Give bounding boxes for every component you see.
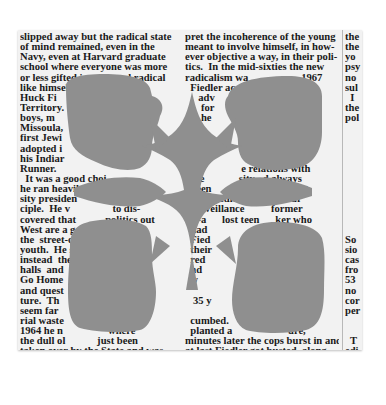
text-line: Navy, even at Harvard graduate xyxy=(20,52,180,62)
text-line: r xyxy=(185,133,339,143)
text-line: ever objective a way, in their poli- xyxy=(185,52,339,62)
text-line: sity presiden matter of xyxy=(20,194,180,204)
text-line: rial waste So xyxy=(20,316,180,326)
article-column-2: pret the incoherence of the youngmeant t… xyxy=(185,32,339,350)
text-line: —a lost teen ker who xyxy=(185,215,339,225)
text-line: adopted i xyxy=(20,144,180,154)
text-line: instead the s xyxy=(20,255,180,265)
text-line: red e in a xyxy=(185,255,339,265)
text-line: w the xyxy=(185,275,339,285)
text-line: a d e relations with xyxy=(185,164,339,174)
text-line: his Indiar xyxy=(20,154,180,164)
text-line: been moved ey kept xyxy=(185,184,339,194)
text-line: halls and xyxy=(20,265,180,275)
text-line: edi xyxy=(345,346,362,350)
column-divider xyxy=(342,30,343,350)
text-line xyxy=(345,204,362,214)
text-line: nd ronic xyxy=(185,265,339,275)
text-line: like himself hero. xyxy=(20,83,180,93)
text-line: the Fiedler 24-hour xyxy=(185,194,339,204)
text-line: boys, m s o xyxy=(20,113,180,123)
text-line: the xyxy=(345,32,362,42)
text-line: their er service while xyxy=(185,245,339,255)
text-line: radicalism wa 1967 xyxy=(185,73,339,83)
text-line: cor xyxy=(345,296,362,306)
text-line: tics. In the mid-sixties the new xyxy=(185,62,339,72)
text-line: Huck Fi r xyxy=(20,93,180,103)
text-line: a-s again xyxy=(185,154,339,164)
text-line: cumbed. same, xyxy=(185,316,339,326)
text-line: he was xyxy=(185,113,339,123)
text-line: for was xyxy=(185,103,339,113)
text-line: 53 xyxy=(345,275,362,285)
text-line: ns. xyxy=(185,286,339,296)
text-line: It was a good choi xyxy=(20,174,180,184)
text-line: of mind remained, even in the xyxy=(20,42,180,52)
text-line: or less gifted intense and radical xyxy=(20,73,180,83)
text-line xyxy=(345,316,362,326)
text-line: Missoula, xyxy=(20,123,180,133)
article-column-3-partial: thetheyopsynosul IthepolSosiocasfro53noc… xyxy=(345,32,362,350)
text-line: pol xyxy=(345,113,362,123)
text-line: seem far ndu xyxy=(20,306,180,316)
text-line xyxy=(345,326,362,336)
text-line: 35 y ranted xyxy=(185,296,339,306)
text-line: first Jewi xyxy=(20,133,180,143)
text-line: sio xyxy=(345,245,362,255)
text-line: the sity d always xyxy=(185,174,339,184)
text-line xyxy=(345,194,362,204)
text-line: planted a ure, xyxy=(185,326,339,336)
text-line: ture. Th an to xyxy=(20,296,180,306)
text-line: taken over by the State and was xyxy=(20,346,180,350)
text-line xyxy=(345,215,362,225)
text-line: and quest xyxy=(20,286,180,296)
text-line: adv organ- xyxy=(185,93,339,103)
newspaper-clipping: slipped away but the radical stateof min… xyxy=(18,30,362,350)
text-line: no xyxy=(345,286,362,296)
text-line: ence xyxy=(185,306,339,316)
text-line xyxy=(345,133,362,143)
text-line: y. and xyxy=(185,123,339,133)
text-line: fro xyxy=(345,265,362,275)
text-line: Go Home xyxy=(20,275,180,285)
text-line xyxy=(345,144,362,154)
text-line xyxy=(345,225,362,235)
text-line: the xyxy=(345,42,362,52)
text-line: the street-cor r b xyxy=(20,235,180,245)
text-line: he ran heavily rai xyxy=(20,184,180,194)
text-line: T xyxy=(345,336,362,346)
text-line: per xyxy=(345,306,362,316)
text-line: Fied he even attended xyxy=(185,235,339,245)
text-line: Territory. co xyxy=(20,103,180,113)
text-line xyxy=(345,154,362,164)
text-line xyxy=(345,184,362,194)
text-line: 1964 he n where xyxy=(20,326,180,336)
text-line: yo xyxy=(345,52,362,62)
text-line: meant to involve himself, in how- xyxy=(185,42,339,52)
text-line: Fiedler acc n of xyxy=(185,83,339,93)
text-line: Runner. xyxy=(20,164,180,174)
text-line: no xyxy=(345,73,362,83)
text-line: slipped away but the radical state xyxy=(20,32,180,42)
text-line: cas xyxy=(345,255,362,265)
text-line: psy xyxy=(345,62,362,72)
text-line: surveillance former xyxy=(185,204,339,214)
text-line: minutes later the cops burst in and xyxy=(185,336,339,346)
text-line: school where everyone was more xyxy=(20,62,180,72)
text-line: covered that politics out xyxy=(20,215,180,225)
text-line: I xyxy=(345,93,362,103)
text-line: had one of the xyxy=(185,225,339,235)
text-line xyxy=(345,123,362,133)
text-line: ciple. He v to dis- xyxy=(20,204,180,214)
text-line: West are a go ocal tle xyxy=(20,225,180,235)
text-line: So xyxy=(345,235,362,245)
article-column-1: slipped away but the radical stateof min… xyxy=(20,32,180,350)
text-line: pret the incoherence of the young xyxy=(185,32,339,42)
text-line: At Mon- xyxy=(185,144,339,154)
text-line xyxy=(345,174,362,184)
text-line xyxy=(345,164,362,174)
text-line: at last Fiedler got busted, along xyxy=(185,346,339,350)
text-line: the xyxy=(345,103,362,113)
text-line: sul xyxy=(345,83,362,93)
text-line: the dull ol just been xyxy=(20,336,180,346)
